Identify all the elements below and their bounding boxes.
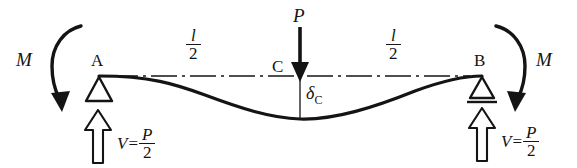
up-arrow-outline-icon-left bbox=[85, 110, 111, 163]
reaction-right-equals: = bbox=[512, 133, 522, 150]
reaction-right-numerator: P bbox=[523, 124, 539, 142]
span-right-denominator: 2 bbox=[386, 45, 401, 62]
up-arrow-outline-icon-right bbox=[469, 108, 495, 161]
span-label-right: l 2 bbox=[386, 27, 401, 63]
reaction-left-numerator: P bbox=[139, 126, 155, 144]
load-label-p: P bbox=[293, 6, 305, 25]
beam-deflection-figure: M M A B C P l 2 l 2 δC V = P 2 V = bbox=[0, 0, 577, 168]
reaction-left-denominator: 2 bbox=[139, 144, 155, 161]
deflected-beam-curve-icon bbox=[99, 76, 482, 119]
reaction-right-denominator: 2 bbox=[523, 142, 539, 159]
figure-canvas bbox=[0, 0, 577, 168]
deflection-subscript: C bbox=[314, 93, 322, 107]
deflection-label: δC bbox=[306, 84, 322, 106]
reaction-label-right: V = P 2 bbox=[501, 124, 539, 160]
reaction-label-left: V = P 2 bbox=[117, 126, 155, 162]
midpoint-label-c: C bbox=[272, 58, 283, 75]
down-arrow-solid-icon bbox=[291, 27, 309, 82]
span-right-numerator: l bbox=[386, 27, 401, 45]
reaction-right-symbol: V bbox=[501, 133, 511, 150]
curved-moment-arrow-icon-left bbox=[51, 26, 81, 112]
support-label-a: A bbox=[91, 52, 103, 69]
span-left-numerator: l bbox=[186, 27, 201, 45]
moment-label-left: M bbox=[16, 50, 32, 69]
span-label-left: l 2 bbox=[186, 27, 201, 63]
roller-support-triangle-icon bbox=[467, 77, 497, 102]
span-left-denominator: 2 bbox=[186, 45, 201, 62]
reaction-left-symbol: V bbox=[117, 135, 127, 152]
reaction-left-equals: = bbox=[128, 135, 138, 152]
support-label-b: B bbox=[474, 52, 485, 69]
pin-support-triangle-icon bbox=[86, 77, 112, 101]
moment-label-right: M bbox=[536, 50, 552, 69]
curved-moment-arrow-icon-right bbox=[496, 26, 526, 112]
